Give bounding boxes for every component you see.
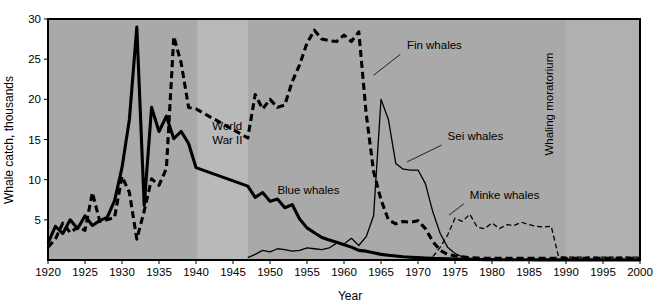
x-tick-label: 1960 [331, 266, 357, 278]
y-tick-label: 20 [28, 93, 41, 105]
y-tick-label: 25 [28, 53, 41, 65]
x-tick-label: 1920 [35, 266, 61, 278]
x-tick-label: 1950 [257, 266, 283, 278]
series-label-minke-whales: Minke whales [470, 189, 540, 201]
x-tick-label: 1955 [294, 266, 320, 278]
x-axis-title: Year [338, 289, 362, 303]
x-tick-label: 1935 [146, 266, 172, 278]
x-tick-label: 1990 [553, 266, 579, 278]
x-tick-label: 1940 [183, 266, 209, 278]
y-tick-label: 10 [28, 174, 41, 186]
y-tick-label: 5 [35, 214, 41, 226]
x-tick-label: 1925 [72, 266, 98, 278]
y-tick-label: 15 [28, 134, 41, 146]
series-label-sei-whales: Sei whales [448, 130, 504, 142]
x-tick-label: 2000 [627, 266, 653, 278]
x-tick-label: 1965 [368, 266, 394, 278]
x-tick-label: 1980 [479, 266, 505, 278]
x-tick-label: 1975 [442, 266, 468, 278]
x-tick-label: 1985 [516, 266, 542, 278]
y-tick-label: 30 [28, 13, 41, 25]
annotation-line: World [212, 120, 242, 132]
x-tick-label: 1995 [590, 266, 616, 278]
x-tick-label: 1930 [109, 266, 135, 278]
whaling-moratorium-band [566, 19, 640, 260]
annotation-line: War II [212, 134, 242, 146]
annotation-whaling-moratorium: Whaling moratorium [543, 53, 555, 156]
x-tick-label: 1970 [405, 266, 431, 278]
x-tick-label: 1945 [220, 266, 246, 278]
series-label-fin-whales: Fin whales [407, 39, 462, 51]
chart-svg: 1920192519301935194019451950195519601965… [0, 0, 662, 307]
series-label-blue-whales: Blue whales [277, 184, 339, 196]
whale-catch-chart: 1920192519301935194019451950195519601965… [0, 0, 662, 307]
y-axis-title: Whale catch, thousands [2, 76, 16, 204]
